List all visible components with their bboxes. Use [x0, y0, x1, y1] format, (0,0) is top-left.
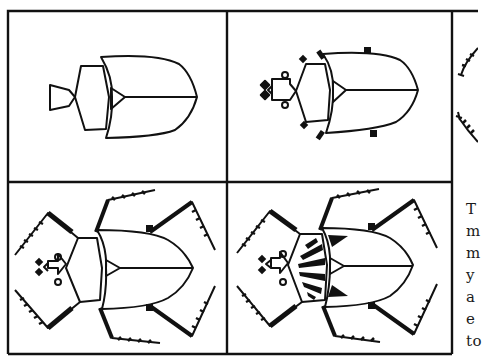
panel-step-1 — [50, 56, 197, 138]
head-shape — [272, 79, 296, 100]
leg-stubs — [299, 47, 377, 140]
head-shape — [50, 85, 75, 110]
eye-bottom — [55, 279, 61, 285]
thorax-shape — [296, 64, 330, 122]
front-leg-top — [15, 213, 78, 255]
wing-case-shape — [323, 53, 418, 133]
eye-bottom — [282, 102, 288, 108]
panel-step-4 — [15, 190, 215, 343]
caption-line: m — [466, 220, 486, 242]
eye-top — [282, 72, 288, 78]
scutellum-shape — [111, 88, 125, 109]
scutellum-shape — [106, 260, 120, 276]
scutellum-shape — [330, 258, 344, 274]
leg-bottom — [459, 118, 478, 142]
thorax-shape — [75, 66, 109, 130]
eye-bottom — [280, 279, 286, 285]
front-leg-top — [237, 211, 300, 253]
scutellum-shape — [333, 81, 346, 102]
panel-step-5 — [237, 189, 437, 342]
caption-line: y — [466, 264, 486, 286]
eye-top — [280, 251, 286, 257]
thorax-markings — [298, 238, 325, 300]
caption-text: T m m y a e to — [466, 198, 486, 352]
head-shape — [48, 254, 66, 274]
caption-line: a — [466, 286, 486, 308]
panel-step-2 — [261, 47, 418, 140]
thorax-shape — [66, 238, 102, 302]
caption-line: m — [466, 242, 486, 264]
caption-line: to — [466, 330, 486, 352]
caption-line: e — [466, 308, 486, 330]
panel-step-3 — [456, 48, 478, 142]
caption-line: T — [466, 198, 486, 220]
wing-case-shape — [97, 230, 193, 309]
